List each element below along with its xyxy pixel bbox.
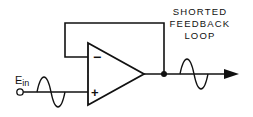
shorted-feedback-title-line-1: SHORTED bbox=[173, 6, 228, 17]
input-terminal bbox=[17, 89, 23, 95]
shorted-feedback-title-line-2: FEEDBACK bbox=[170, 18, 231, 29]
inverting-input-sign: − bbox=[93, 49, 101, 65]
noninverting-input-sign: + bbox=[91, 85, 99, 100]
op-amp-voltage-follower-diagram: − + Ein SHORTED FEEDBACK LOOP bbox=[0, 0, 253, 117]
shorted-feedback-title-line-3: LOOP bbox=[184, 30, 215, 41]
input-label: Ein bbox=[15, 74, 29, 88]
output-junction-node bbox=[161, 71, 167, 77]
output-arrowhead-icon bbox=[224, 69, 239, 79]
